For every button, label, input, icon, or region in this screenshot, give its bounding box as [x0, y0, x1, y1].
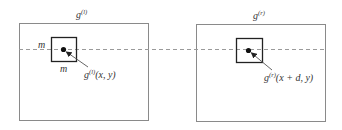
right-leader-arrow	[252, 53, 273, 70]
right-point-label: g(r)(x + d, y)	[264, 73, 313, 83]
right-title-sup: (r)	[258, 9, 265, 16]
left-center-point	[61, 47, 66, 52]
right-point-sup: (r)	[269, 71, 276, 78]
right-image-title: g(r)	[253, 11, 265, 21]
right-point-args: (x + d, y)	[276, 72, 313, 83]
left-title-sup: (l)	[81, 8, 87, 15]
window-size-label-bottom: m	[60, 64, 67, 74]
left-point-label: g(l)(x, y)	[84, 70, 116, 80]
window-size-label-side: m	[38, 40, 45, 50]
left-leader-arrow	[67, 52, 89, 67]
right-center-point	[246, 48, 251, 53]
stereo-diagram	[0, 0, 342, 130]
left-point-args: (x, y)	[95, 69, 116, 80]
left-image-title: g(l)	[76, 10, 87, 20]
